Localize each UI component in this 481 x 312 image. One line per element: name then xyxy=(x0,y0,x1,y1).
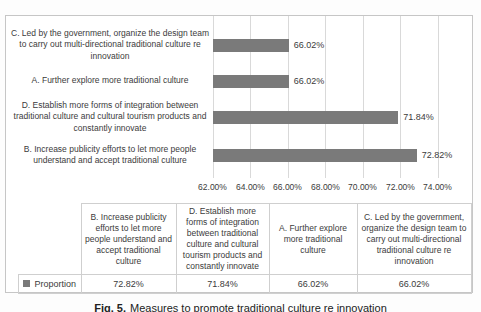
chart-container: C. Led by the government, organize the d… xyxy=(5,15,473,293)
bar xyxy=(213,149,417,162)
table-value-cell: 72.82% xyxy=(81,275,176,294)
category-label-text: D. Establish more forms of integration b… xyxy=(9,100,211,135)
bar xyxy=(213,111,398,124)
category-label-text: A. Further explore more traditional cult… xyxy=(9,75,211,87)
table-value-row: Proportion 72.82% 71.84% 66.02% 66.02% xyxy=(19,275,472,294)
table-value-cell: 66.02% xyxy=(269,275,357,294)
bar-value-label: 66.02% xyxy=(294,76,325,86)
bar xyxy=(213,39,289,52)
table-header-cell: A. Further explore more traditional cult… xyxy=(269,204,357,275)
bar-row: 66.02% xyxy=(213,38,439,52)
table-header-cell: D. Establish more forms of integration b… xyxy=(176,204,269,275)
table-header-cell: B. Increase publicity efforts to let mor… xyxy=(81,204,176,275)
caption-text: Measures to promote traditional culture … xyxy=(130,302,387,312)
category-label-text: C. Led by the government, organize the d… xyxy=(9,28,211,63)
x-axis-tick: 74.00% xyxy=(415,182,460,192)
bar-value-label: 66.02% xyxy=(294,40,325,50)
category-label-text: B. Increase publicity efforts to let mor… xyxy=(9,144,211,167)
category-label: B. Increase publicity efforts to let mor… xyxy=(9,133,211,177)
legend-cell: Proportion xyxy=(19,275,82,294)
figure-page: C. Led by the government, organize the d… xyxy=(0,0,481,312)
table-header-row: B. Increase publicity efforts to let mor… xyxy=(19,204,472,275)
bar-value-label: 71.84% xyxy=(403,112,434,122)
table-value-cell: 66.02% xyxy=(357,275,471,294)
bar-row: 66.02% xyxy=(213,74,439,88)
bar-row: 72.82% xyxy=(213,148,439,162)
figure-caption: Fig. 5.Measures to promote traditional c… xyxy=(0,302,481,312)
legend-label: Proportion xyxy=(34,279,76,289)
table-header-cell: C. Led by the government, organize the d… xyxy=(357,204,471,275)
data-table: B. Increase publicity efforts to let mor… xyxy=(18,203,472,294)
bar xyxy=(213,75,289,88)
table-value-cell: 71.84% xyxy=(176,275,269,294)
caption-number: Fig. 5. xyxy=(94,302,126,312)
bar-value-label: 72.82% xyxy=(422,150,453,160)
legend-swatch-icon xyxy=(23,280,30,287)
table-corner-cell xyxy=(19,204,82,275)
bar-row: 71.84% xyxy=(213,110,439,124)
